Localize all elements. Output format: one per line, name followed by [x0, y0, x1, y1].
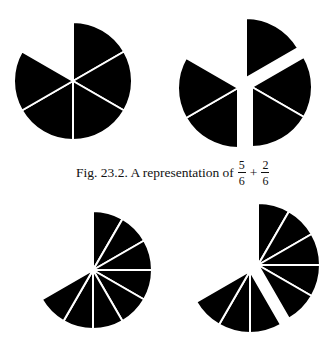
- piece-group: [252, 57, 312, 147]
- pie-twelfths-exploded: [196, 203, 320, 333]
- caption-text: Fig. 23.2. A representation of: [76, 165, 234, 181]
- piece-group: [178, 58, 238, 148]
- operator-plus: +: [250, 165, 258, 181]
- fraction-a-numerator: 5: [238, 159, 246, 173]
- piece-group: [14, 22, 132, 140]
- pie-twelfths-whole: [42, 211, 152, 329]
- fraction-b-denominator: 6: [262, 173, 268, 187]
- fraction-a-denominator: 6: [239, 173, 245, 187]
- fraction-b-numerator: 2: [261, 159, 269, 173]
- fraction-b: 2 6: [261, 159, 269, 187]
- piece-group: [42, 211, 152, 329]
- figure-caption: Fig. 23.2. A representation of 5 6 + 2 6: [76, 158, 271, 188]
- pie-sixths-whole: [14, 22, 132, 140]
- fraction-a: 5 6: [238, 159, 246, 187]
- pie-sixths-exploded: [178, 18, 312, 148]
